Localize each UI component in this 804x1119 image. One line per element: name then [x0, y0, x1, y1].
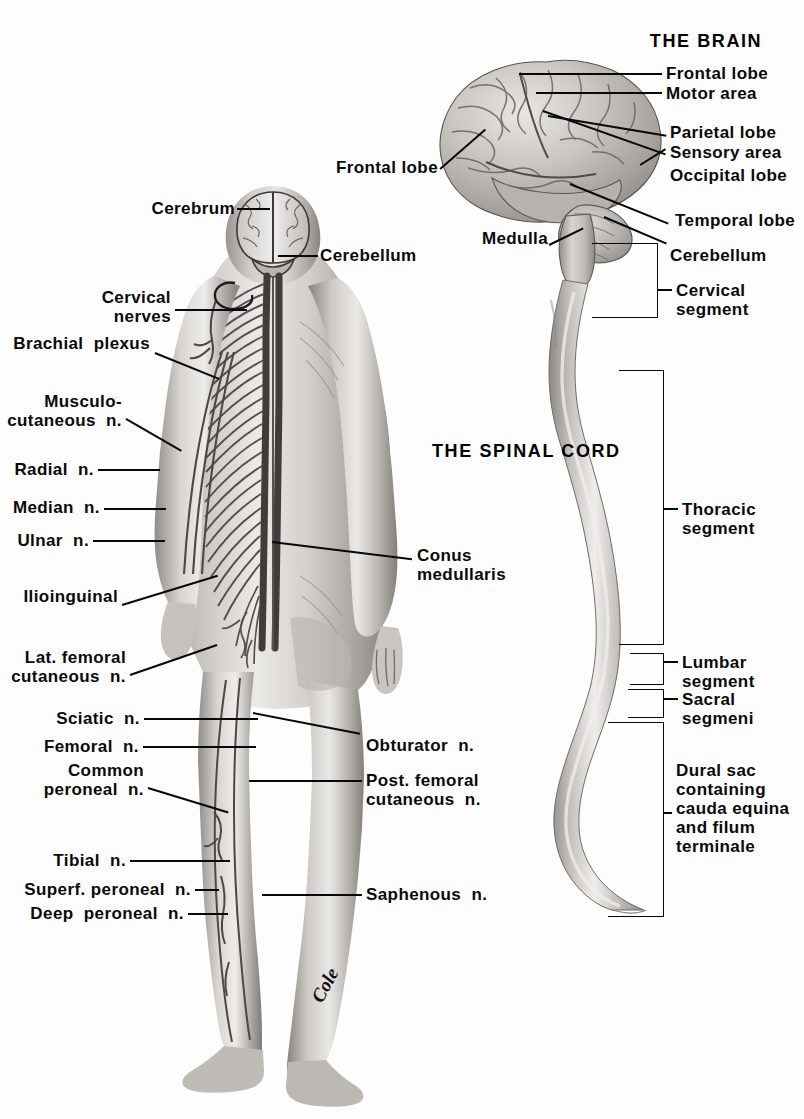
- label-medulla: Medulla: [448, 229, 548, 248]
- leader-median-n: [104, 508, 166, 510]
- spinal-cord-in-body: [262, 276, 267, 648]
- bracket-sacral: [628, 689, 664, 718]
- label-thoracic-segment: Thoracic segment: [682, 500, 756, 538]
- label-saphenous-n: Saphenous n.: [366, 885, 487, 904]
- tick-dural-sac: [664, 812, 672, 814]
- label-common-peroneal-n: Common peroneal n.: [0, 761, 144, 799]
- tick-sacral: [664, 698, 678, 700]
- label-sacral-segment: Sacral segmeni: [682, 690, 754, 728]
- leader-frontal-lobe-right: [519, 73, 662, 75]
- label-obturator-n: Obturator n.: [366, 736, 474, 755]
- label-brachial-plexus: Brachial plexus: [10, 334, 150, 353]
- leader-tibial-n: [130, 860, 230, 862]
- label-musculocutaneous-n: Musculo- cutaneous n.: [2, 392, 122, 430]
- bracket-thoracic: [619, 370, 664, 645]
- tick-thoracic: [664, 508, 678, 510]
- label-femoral-n: Femoral n.: [0, 737, 139, 756]
- label-cervical-nerves: Cervical nerves: [45, 288, 171, 326]
- right-foot-shape: [286, 1060, 364, 1107]
- tick-lumbar: [664, 661, 678, 663]
- leader-motor-area: [536, 92, 662, 94]
- label-ilioinguinal: Ilioinguinal: [0, 587, 118, 606]
- label-frontal-lobe-left: Frontal lobe: [298, 158, 438, 177]
- label-cervical-segment: Cervical segment: [676, 281, 749, 319]
- label-parietal-lobe: Parietal lobe: [670, 123, 776, 142]
- human-body-illustration: Cole: [155, 186, 403, 1107]
- label-occipital-lobe: Occipital lobe: [670, 166, 787, 185]
- leader-cerebrum: [237, 208, 270, 210]
- left-foot-shape: [183, 1046, 264, 1093]
- label-conus-medullaris: Conus medullaris: [417, 546, 506, 584]
- left-hand-shape: [161, 602, 196, 660]
- label-sensory-area: Sensory area: [670, 143, 782, 162]
- label-motor-area: Motor area: [666, 84, 757, 103]
- label-lat-femoral-cutaneous-n: Lat. femoral cutaneous n.: [0, 648, 126, 686]
- label-deep-peroneal-n: Deep peroneal n.: [0, 904, 184, 923]
- leader-femoral-n: [143, 746, 256, 748]
- spinal-cord-title: THE SPINAL CORD: [432, 440, 592, 463]
- leader-superf-peroneal-n: [195, 889, 219, 891]
- leader-deep-peroneal-n: [188, 913, 228, 915]
- label-median-n: Median n.: [0, 498, 100, 517]
- label-frontal-lobe-right: Frontal lobe: [666, 64, 768, 83]
- label-tibial-n: Tibial n.: [0, 851, 126, 870]
- leader-ulnar-n: [93, 540, 165, 542]
- tick-cervical: [658, 289, 672, 291]
- leader-sciatic-n: [144, 718, 258, 720]
- label-temporal-lobe: Temporal lobe: [675, 211, 795, 230]
- spinal-cord-in-body-2: [275, 276, 279, 648]
- leader-radial-n: [98, 469, 160, 471]
- right-leg-shape: [287, 680, 364, 1085]
- brain-title: THE BRAIN: [646, 30, 766, 53]
- label-cerebellum-body: Cerebellum: [320, 246, 417, 265]
- bracket-dural-sac: [608, 722, 664, 917]
- medulla-shape: [559, 214, 595, 288]
- label-lumbar-segment: Lumbar segment: [682, 653, 755, 691]
- label-dural-sac: Dural sac containing cauda equina and fi…: [676, 761, 789, 856]
- label-superf-peroneal-n: Superf. peroneal n.: [0, 880, 191, 899]
- label-cerebrum: Cerebrum: [110, 199, 235, 218]
- label-sciatic-n: Sciatic n.: [0, 709, 140, 728]
- leader-cerebellum-body: [278, 255, 318, 257]
- left-leg-shape: [198, 672, 262, 1073]
- leader-cervical-nerves: [175, 309, 247, 311]
- bracket-cervical: [592, 243, 658, 318]
- label-post-femoral-cutaneous-n: Post. femoral cutaneous n.: [366, 771, 481, 809]
- label-ulnar-n: Ulnar n.: [0, 531, 89, 550]
- label-cerebellum-brain: Cerebellum: [670, 246, 767, 265]
- leader-saphenous-n: [262, 894, 362, 896]
- bracket-lumbar: [630, 653, 664, 685]
- leader-post-femoral-cutaneous-n: [249, 780, 362, 782]
- anatomy-figure-page: Cole: [0, 0, 804, 1119]
- label-radial-n: Radial n.: [0, 460, 94, 479]
